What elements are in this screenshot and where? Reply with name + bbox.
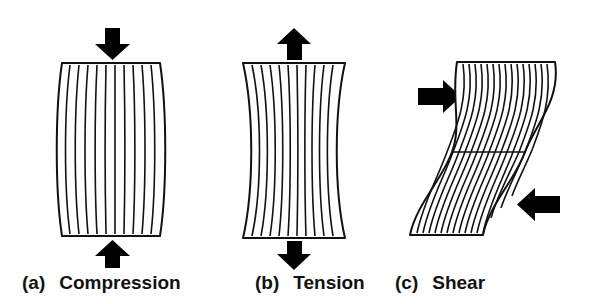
- caption-label-b: Tension: [293, 270, 364, 296]
- caption-tag-b: (b): [255, 270, 279, 296]
- caption-shear: (c)Shear: [395, 270, 485, 296]
- shear-drawing: [385, 0, 595, 270]
- caption-tag-c: (c): [395, 270, 418, 296]
- left-arrow-icon: [517, 188, 560, 221]
- caption-row: (a)Compression (b)Tension (c)Shear: [0, 268, 595, 304]
- compression-block-outline: [57, 63, 166, 236]
- panel-shear: [385, 0, 595, 270]
- up-arrow-icon: [277, 28, 311, 60]
- down-arrow-icon: [277, 241, 311, 270]
- tension-drawing: [210, 0, 390, 270]
- up-arrow-icon: [95, 240, 130, 268]
- deformation-figure: (a)Compression (b)Tension (c)Shear: [0, 0, 595, 304]
- down-arrow-icon: [95, 28, 130, 60]
- caption-label-c: Shear: [432, 270, 485, 296]
- caption-tag-a: (a): [22, 270, 45, 296]
- panel-compression: [0, 0, 225, 270]
- caption-label-a: Compression: [59, 270, 180, 296]
- compression-drawing: [0, 0, 225, 270]
- caption-compression: (a)Compression: [22, 270, 181, 296]
- panel-tension: [210, 0, 390, 270]
- caption-tension: (b)Tension: [255, 270, 365, 296]
